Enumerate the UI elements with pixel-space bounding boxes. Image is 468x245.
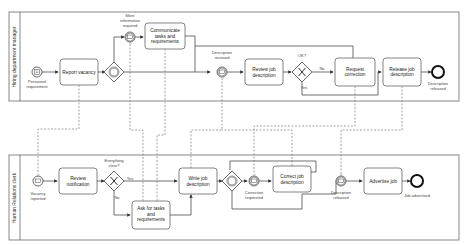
svg-text:reported: reported xyxy=(31,196,46,201)
bpmn-diagram: Hiring department manager Human Relation… xyxy=(0,0,468,245)
svg-text:Yes: Yes xyxy=(301,85,308,90)
svg-text:description: description xyxy=(280,180,304,185)
lane-label-hr: Human Relations clerk xyxy=(11,172,17,223)
svg-text:Communicate: Communicate xyxy=(150,28,180,33)
svg-text:Request: Request xyxy=(346,67,365,72)
svg-text:No: No xyxy=(114,195,120,200)
svg-text:correction: correction xyxy=(344,72,365,77)
svg-text:requirement: requirement xyxy=(26,84,48,89)
svg-text:requested: requested xyxy=(245,195,263,200)
svg-text:tasks and: tasks and xyxy=(155,34,176,39)
svg-text:Job advertised: Job advertised xyxy=(404,193,430,198)
svg-text:description: description xyxy=(252,73,276,78)
svg-text:required: required xyxy=(123,23,138,28)
svg-text:and: and xyxy=(147,212,155,217)
svg-text:Review job: Review job xyxy=(252,67,276,72)
svg-text:Advertise job: Advertise job xyxy=(369,179,397,184)
svg-text:Write job: Write job xyxy=(189,176,208,181)
svg-text:No: No xyxy=(319,66,325,71)
svg-text:description: description xyxy=(390,72,414,77)
svg-text:Yes: Yes xyxy=(127,176,134,181)
svg-text:requirements: requirements xyxy=(137,217,166,222)
svg-text:notification: notification xyxy=(67,182,90,187)
svg-text:Report vacancy: Report vacancy xyxy=(62,70,96,75)
task-request-correction[interactable]: Request correction xyxy=(335,58,375,86)
pool-hiring-department-manager: Hiring department manager xyxy=(9,12,459,101)
task-report-vacancy[interactable]: Report vacancy xyxy=(60,59,98,85)
task-review-notification[interactable]: Review notification xyxy=(59,168,97,194)
svg-text:OK?: OK? xyxy=(298,53,307,58)
lane-label-hdm: Hiring department manager xyxy=(11,26,17,87)
svg-text:released: released xyxy=(333,195,348,200)
svg-text:requirements: requirements xyxy=(151,39,180,44)
svg-text:Release job: Release job xyxy=(389,67,415,72)
svg-text:Ask for tasks: Ask for tasks xyxy=(137,206,165,211)
task-ask-for-tasks-and-requirements[interactable]: Ask for tasks and requirements xyxy=(132,201,170,229)
task-release-job-description[interactable]: Release job description xyxy=(383,58,421,86)
task-review-job-description[interactable]: Review job description xyxy=(245,59,283,85)
task-write-job-description[interactable]: Write job description xyxy=(179,168,217,194)
svg-text:clear?: clear? xyxy=(109,163,121,168)
task-advertise-job[interactable]: Advertise job xyxy=(364,168,402,194)
svg-text:released: released xyxy=(430,86,445,91)
svg-text:Correct job: Correct job xyxy=(280,174,304,179)
task-communicate-tasks-and-requirements[interactable]: Communicate tasks and requirements xyxy=(145,23,185,49)
task-correct-job-description[interactable]: Correct job description xyxy=(273,166,311,192)
svg-text:received: received xyxy=(214,55,229,60)
svg-text:Review: Review xyxy=(70,176,86,181)
svg-text:description: description xyxy=(186,182,210,187)
